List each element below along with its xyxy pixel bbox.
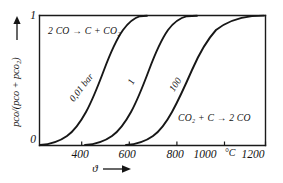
curve-label-group: 0,01 bar 1 100: [67, 71, 184, 104]
x-axis-title: ϑ: [92, 162, 98, 174]
curve-label-1-bar: 1: [125, 77, 137, 86]
x-tick-label-600: 600: [118, 148, 136, 160]
reaction-annotation-bottom: CO₂ + C → 2 CO: [178, 112, 251, 123]
x-tick-label-400: 400: [71, 148, 89, 160]
x-axis-arrow: [103, 165, 131, 173]
y-axis-title: pᴄᴏ/(pᴄᴏ + pᴄᴏ₂): [10, 57, 22, 128]
y-axis-title-group: pᴄᴏ/(pᴄᴏ + pᴄᴏ₂): [10, 57, 22, 128]
boudouard-equilibrium-figure: 1 0 400 600 800 1000 °C 1200 0,01 bar 1 …: [0, 0, 283, 183]
curve-label-100-bar: 100: [166, 75, 183, 93]
reaction-annotation-top: 2 CO → C + CO₂: [48, 25, 121, 36]
x-tick-label-800: 800: [166, 148, 184, 160]
curve-100-bar: [126, 16, 264, 145]
y-axis-label-bottom: 0: [30, 133, 36, 145]
curve-label-0.01-bar: 0,01 bar: [67, 71, 96, 104]
y-axis-label-top: 1: [30, 9, 36, 21]
x-tick-label-1000: 1000: [194, 148, 217, 160]
chart-canvas: 1 0 400 600 800 1000 °C 1200 0,01 bar 1 …: [0, 0, 283, 183]
y-axis-arrow: [13, 16, 20, 40]
x-tick-label-1200: 1200: [242, 148, 265, 160]
x-axis-unit-celsius: °C: [225, 147, 236, 158]
